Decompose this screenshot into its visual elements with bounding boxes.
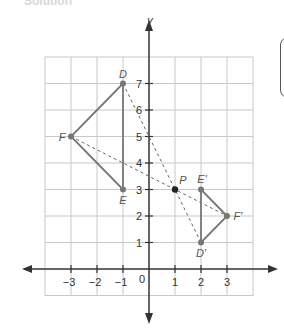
label-D: D: [119, 68, 127, 80]
y-tick-label: 7: [136, 78, 142, 90]
label-Ep: E′: [197, 173, 207, 185]
label-Fp: F′: [234, 210, 244, 222]
point-Dp: [198, 240, 204, 246]
x-tick-label: −1: [115, 276, 128, 288]
y-tick-label: 4: [136, 157, 142, 169]
x-axis-right-arrow: [268, 265, 278, 273]
y-tick-label: 3: [136, 184, 142, 196]
y-tick-label: 5: [136, 131, 142, 143]
point-P: [172, 186, 178, 192]
y-tick-label: 2: [136, 210, 142, 222]
x-tick-label: 2: [198, 276, 204, 288]
origin-label: 0: [139, 273, 145, 285]
x-tick-label: −3: [63, 276, 76, 288]
y-axis-down-arrow: [145, 313, 153, 324]
x-tick-label: 1: [172, 276, 178, 288]
point-E: [120, 187, 126, 193]
point-Ep: [198, 187, 204, 193]
label-P: P: [179, 174, 187, 186]
x-tick-label: −2: [89, 276, 102, 288]
point-F: [68, 134, 74, 140]
y-tick-label: 1: [136, 237, 142, 249]
label-E: E: [119, 194, 127, 206]
x-tick-label: 3: [224, 276, 230, 288]
coordinate-plane: y 0 −3 −2 −1 1 2 3 1 2 3 4 5 6 7 D E F P…: [0, 0, 284, 336]
y-tick-label: 6: [136, 104, 142, 116]
point-Fp: [224, 213, 230, 219]
y-axis-label: y: [146, 14, 154, 26]
x-axis-left-arrow: [22, 265, 32, 273]
point-D: [120, 81, 126, 87]
label-Dp: D′: [196, 247, 207, 259]
